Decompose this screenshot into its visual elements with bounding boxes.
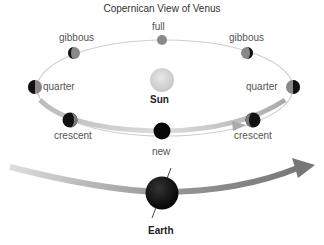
sun-icon — [150, 68, 174, 92]
venus-full-icon — [157, 35, 167, 45]
label-sun: Sun — [150, 95, 169, 105]
earth-icon — [146, 177, 179, 210]
label-gibbous-right: gibbous — [229, 33, 264, 43]
label-earth: Earth — [148, 226, 174, 236]
earth-arrowhead-icon — [292, 158, 315, 178]
label-quarter-left: quarter — [43, 82, 75, 92]
venus-quarter-left-icon — [28, 80, 42, 94]
venus-gibbous-right-icon — [241, 47, 253, 59]
venus-diagram: Copernican View of Venus full gibbous gi… — [0, 0, 324, 245]
venus-gibbous-left-icon — [68, 47, 80, 59]
venus-crescent-right-icon — [246, 113, 261, 128]
venus-quarter-right-icon — [286, 80, 300, 94]
label-new: new — [152, 147, 170, 157]
label-quarter-right: quarter — [246, 82, 278, 92]
venus-crescent-left-icon — [63, 113, 78, 128]
diagram-graphics — [0, 0, 324, 245]
label-crescent-right: crescent — [234, 131, 272, 141]
venus-new-icon — [154, 123, 171, 140]
label-gibbous-left: gibbous — [59, 33, 94, 43]
label-full: full — [152, 22, 165, 32]
label-crescent-left: crescent — [54, 131, 92, 141]
diagram-title: Copernican View of Venus — [0, 3, 324, 14]
